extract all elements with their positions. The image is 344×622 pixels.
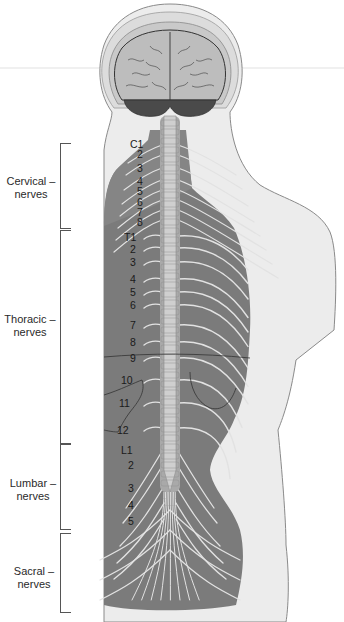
label-t1: T1 (124, 231, 136, 243)
spinal-nerves-diagram: Cervical – nerves Thoracic – nerves Lumb… (0, 0, 344, 622)
label-c3: 3 (137, 162, 143, 174)
label-t12: 12 (117, 424, 129, 436)
sacral-bracket (60, 533, 71, 613)
label-c8: 8 (137, 216, 143, 228)
label-t7: 7 (130, 319, 136, 331)
label-t11: 11 (119, 397, 130, 409)
anatomy-illustration (0, 0, 344, 622)
label-t6: 6 (130, 299, 136, 311)
cervical-bracket (60, 143, 71, 229)
lumbar-label: Lumbar – nerves (8, 477, 58, 503)
sacral-label-line2: nerves (17, 578, 50, 590)
label-l3: 3 (128, 482, 134, 494)
spinal-cord (164, 116, 176, 492)
label-t4: 4 (130, 273, 136, 285)
lumbar-label-line2: nerves (16, 490, 49, 502)
thoracic-bracket (60, 230, 71, 444)
label-t5: 5 (130, 286, 136, 298)
label-t8: 8 (130, 336, 136, 348)
sacral-label: Sacral – nerves (10, 565, 58, 591)
lumbar-label-line1: Lumbar (10, 477, 47, 489)
label-l1: L1 (121, 444, 133, 456)
label-t2: 2 (130, 243, 136, 255)
label-t10: 10 (121, 374, 133, 386)
label-l2: 2 (128, 459, 134, 471)
cervical-label-line2: nerves (14, 188, 47, 200)
thoracic-label-line1: Thoracic (4, 313, 46, 325)
thoracic-label-line2: nerves (13, 326, 46, 338)
lumbar-bracket (60, 444, 71, 530)
label-l4: 4 (128, 499, 134, 511)
label-t3: 3 (130, 256, 136, 268)
thoracic-label: Thoracic – nerves (2, 313, 58, 339)
cervical-label: Cervical – nerves (6, 175, 56, 201)
sacral-label-line1: Sacral (14, 565, 45, 577)
cervical-label-line1: Cervical (7, 175, 47, 187)
label-t9: 9 (130, 352, 136, 364)
label-c2: 2 (137, 148, 143, 160)
label-l5: 5 (128, 515, 134, 527)
